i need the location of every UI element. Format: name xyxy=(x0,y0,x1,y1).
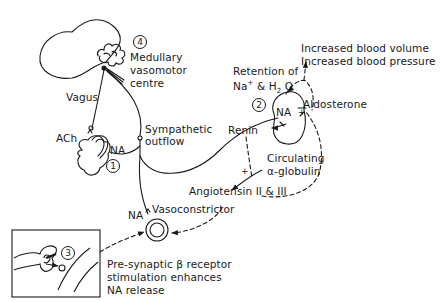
label-na-kidney: NA xyxy=(276,106,291,119)
label-angiotensin: Angiotensin II & III xyxy=(189,185,287,198)
label-centre: centre xyxy=(130,77,164,90)
inset-box xyxy=(12,230,100,297)
label-alpha-globulin: α-globulin xyxy=(267,165,321,178)
marker-2: 2 xyxy=(252,98,266,112)
label-retention: Retention of xyxy=(233,65,298,78)
label-na-release: NA release xyxy=(107,284,165,297)
label-presynaptic: Pre-synaptic β receptor xyxy=(107,258,232,271)
plus-aldosterone: + xyxy=(298,106,306,119)
label-circulating: Circulating xyxy=(267,152,325,165)
label-ach: ACh xyxy=(56,132,77,145)
label-sympathetic: Sympathetic xyxy=(145,123,212,136)
plus-renin: + xyxy=(241,165,249,178)
bp-control-diagram: 4 1 2 3 Medullary vasomotor centre Vagus… xyxy=(0,0,440,302)
label-na-vessel: NA xyxy=(128,209,143,222)
vessel-icon xyxy=(146,219,168,241)
label-vagus: Vagus xyxy=(66,91,98,104)
heart-icon xyxy=(78,136,110,175)
label-vasomotor: vasomotor xyxy=(130,64,187,77)
marker-3: 3 xyxy=(61,246,75,260)
label-increased-volume: Increased blood volume xyxy=(301,42,429,55)
label-renin: Renin xyxy=(228,124,258,137)
label-increased-pressure: Increased blood pressure xyxy=(301,55,436,68)
label-na-heart: NA xyxy=(110,144,125,157)
marker-4: 4 xyxy=(133,35,147,49)
label-aldosterone: Aldosterone xyxy=(303,98,367,111)
label-vasoconstrictor: Vasoconstrictor xyxy=(152,203,235,216)
marker-1: 1 xyxy=(106,159,120,173)
label-stimulation: stimulation enhances xyxy=(107,271,222,284)
label-na-h2o: Na+ & H2 O xyxy=(233,77,293,97)
label-outflow: outflow xyxy=(145,135,185,148)
label-medullary: Medullary xyxy=(130,51,183,64)
